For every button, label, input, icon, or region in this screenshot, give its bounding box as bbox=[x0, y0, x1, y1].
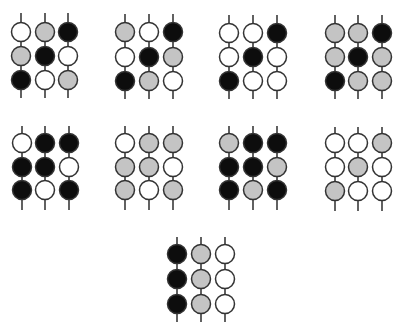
white-bead-icon bbox=[220, 48, 239, 67]
white-bead-icon bbox=[216, 295, 235, 314]
black-bead-icon bbox=[220, 72, 239, 91]
white-bead-icon bbox=[164, 158, 183, 177]
gray-bead-icon bbox=[268, 158, 287, 177]
black-bead-icon bbox=[164, 23, 183, 42]
white-bead-icon bbox=[244, 72, 263, 91]
gray-bead-icon bbox=[59, 71, 78, 90]
gray-bead-icon bbox=[164, 134, 183, 153]
black-bead-icon bbox=[13, 158, 32, 177]
gray-bead-icon bbox=[192, 295, 211, 314]
white-bead-icon bbox=[59, 47, 78, 66]
black-bead-icon bbox=[116, 72, 135, 91]
gray-bead-icon bbox=[349, 72, 368, 91]
black-bead-icon bbox=[268, 24, 287, 43]
white-bead-icon bbox=[140, 181, 159, 200]
pattern-panel-2 bbox=[116, 14, 183, 99]
black-bead-icon bbox=[12, 71, 31, 90]
black-bead-icon bbox=[60, 181, 79, 200]
black-bead-icon bbox=[244, 48, 263, 67]
black-bead-icon bbox=[326, 72, 345, 91]
white-bead-icon bbox=[268, 48, 287, 67]
black-bead-icon bbox=[140, 48, 159, 67]
gray-bead-icon bbox=[220, 134, 239, 153]
gray-bead-icon bbox=[164, 181, 183, 200]
gray-bead-icon bbox=[326, 182, 345, 201]
black-bead-icon bbox=[168, 295, 187, 314]
pattern-panel-6 bbox=[116, 126, 183, 210]
gray-bead-icon bbox=[116, 181, 135, 200]
gray-bead-icon bbox=[192, 270, 211, 289]
gray-bead-icon bbox=[326, 24, 345, 43]
gray-bead-icon bbox=[140, 72, 159, 91]
black-bead-icon bbox=[268, 181, 287, 200]
white-bead-icon bbox=[244, 24, 263, 43]
white-bead-icon bbox=[349, 134, 368, 153]
gray-bead-icon bbox=[326, 48, 345, 67]
black-bead-icon bbox=[60, 134, 79, 153]
pattern-panel-3 bbox=[220, 15, 287, 99]
white-bead-icon bbox=[116, 134, 135, 153]
black-bead-icon bbox=[59, 23, 78, 42]
gray-bead-icon bbox=[373, 48, 392, 67]
gray-bead-icon bbox=[164, 48, 183, 67]
white-bead-icon bbox=[164, 72, 183, 91]
black-bead-icon bbox=[220, 181, 239, 200]
black-bead-icon bbox=[268, 134, 287, 153]
white-bead-icon bbox=[326, 158, 345, 177]
white-bead-icon bbox=[216, 270, 235, 289]
white-bead-icon bbox=[326, 134, 345, 153]
pattern-panel-4 bbox=[326, 15, 392, 99]
gray-bead-icon bbox=[12, 47, 31, 66]
white-bead-icon bbox=[36, 71, 55, 90]
pattern-panel-5 bbox=[13, 126, 79, 210]
black-bead-icon bbox=[13, 181, 32, 200]
black-bead-icon bbox=[36, 158, 55, 177]
white-bead-icon bbox=[216, 245, 235, 264]
pattern-panel-7 bbox=[220, 126, 287, 210]
white-bead-icon bbox=[60, 158, 79, 177]
white-bead-icon bbox=[373, 158, 392, 177]
black-bead-icon bbox=[244, 134, 263, 153]
gray-bead-icon bbox=[349, 158, 368, 177]
white-bead-icon bbox=[36, 181, 55, 200]
gray-bead-icon bbox=[36, 23, 55, 42]
white-bead-icon bbox=[116, 48, 135, 67]
white-bead-icon bbox=[140, 23, 159, 42]
gray-bead-icon bbox=[140, 134, 159, 153]
white-bead-icon bbox=[349, 182, 368, 201]
black-bead-icon bbox=[36, 134, 55, 153]
gray-bead-icon bbox=[116, 158, 135, 177]
black-bead-icon bbox=[168, 245, 187, 264]
pattern-panel-9 bbox=[168, 237, 235, 322]
white-bead-icon bbox=[12, 23, 31, 42]
black-bead-icon bbox=[373, 24, 392, 43]
black-bead-icon bbox=[36, 47, 55, 66]
pattern-panel-8 bbox=[326, 127, 392, 211]
black-bead-icon bbox=[168, 270, 187, 289]
gray-bead-icon bbox=[373, 134, 392, 153]
gray-bead-icon bbox=[192, 245, 211, 264]
white-bead-icon bbox=[373, 182, 392, 201]
white-bead-icon bbox=[13, 134, 32, 153]
black-bead-icon bbox=[220, 158, 239, 177]
gray-bead-icon bbox=[140, 158, 159, 177]
gray-bead-icon bbox=[116, 23, 135, 42]
gray-bead-icon bbox=[349, 24, 368, 43]
gray-bead-icon bbox=[373, 72, 392, 91]
black-bead-icon bbox=[244, 158, 263, 177]
gray-bead-icon bbox=[244, 181, 263, 200]
white-bead-icon bbox=[268, 72, 287, 91]
pattern-panel-1 bbox=[12, 13, 78, 98]
black-bead-icon bbox=[349, 48, 368, 67]
bead-pattern-diagram bbox=[0, 0, 402, 329]
white-bead-icon bbox=[220, 24, 239, 43]
